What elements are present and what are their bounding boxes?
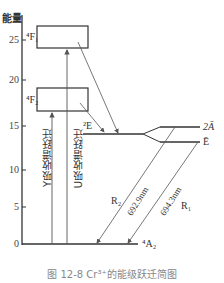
level-4F2-label: ⁴F₂: [26, 95, 39, 105]
figure-caption: 图 12-8 Cr³⁺的能级跃迁简图: [0, 266, 224, 281]
y-tick-0: 0: [3, 239, 19, 249]
level-4F1-box: [37, 26, 88, 48]
y-tick-20: 20: [3, 75, 19, 85]
level-2A-label: 2Ā: [203, 122, 214, 132]
y-tick-5: 5: [3, 202, 19, 212]
u-absorption-label: U吸收谱跃迁: [71, 128, 86, 188]
y-tick-10: 10: [3, 165, 19, 175]
r2-emission-arrow: [97, 127, 175, 243]
level-E-label: Ē: [203, 137, 209, 147]
diagram-canvas: [0, 0, 224, 283]
y-axis-label: 能量: [2, 10, 22, 25]
r2-label: R₂: [111, 196, 121, 206]
level-4F2-box: [37, 88, 88, 111]
level-4F1-label: ⁴F₁: [26, 32, 39, 42]
y-absorption-label: Y吸收谱跃迁: [40, 128, 55, 187]
r1-label: R₁: [181, 201, 191, 211]
y-tick-15: 15: [3, 121, 19, 131]
y-tick-25: 25: [3, 35, 19, 45]
level-4A2-label: ⁴A₂: [142, 239, 156, 249]
